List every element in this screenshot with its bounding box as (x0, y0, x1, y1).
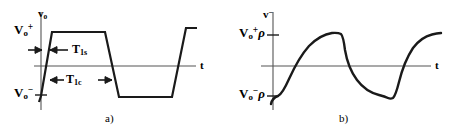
level-label-upper-threshold-b: Vo+ρ (239, 26, 265, 39)
axis-label-vminus-b: v− (263, 9, 273, 20)
exponential-waveform (271, 33, 441, 104)
waveform-figure: vo Vo+ Vo− T1s T1c t a) v− (0, 0, 462, 133)
level-label-negative-a: Vo− (14, 86, 33, 99)
axis-label-t-b: t (435, 60, 439, 71)
axis-label-vo-a: vo (38, 8, 47, 19)
panel-b-exponential-capacitor: v− Vo+ρ Vo−ρ t b) (231, 0, 462, 133)
interval-label-t1c: T1c (66, 73, 82, 85)
panel-a-plot (0, 0, 231, 133)
axis-label-t-a: t (200, 60, 204, 71)
panel-caption-a: a) (105, 112, 114, 124)
panel-caption-b: b) (339, 112, 348, 124)
interval-label-t1s: T1s (72, 43, 87, 55)
level-label-lower-threshold-b: Vo−ρ (239, 87, 265, 100)
level-label-positive-a: Vo+ (14, 23, 33, 36)
trapezoid-waveform (39, 28, 197, 102)
panel-a-trapezoidal-output: vo Vo+ Vo− T1s T1c t a) (0, 0, 231, 133)
